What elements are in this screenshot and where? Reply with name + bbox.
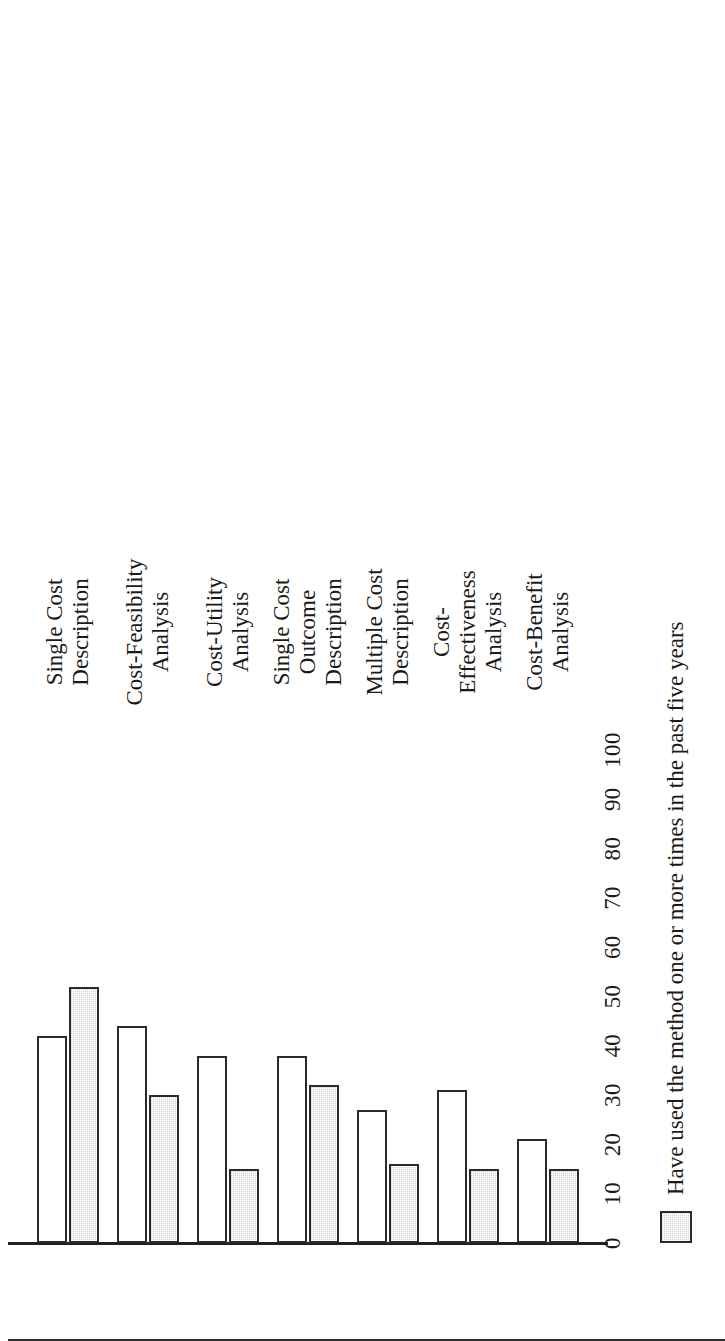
value-tick-label: 100: [600, 732, 626, 767]
bar-filled: [309, 1085, 339, 1243]
category-label-line: Description: [68, 527, 94, 737]
category-label-line: Cost-Benefit: [522, 527, 548, 737]
category-label: Cost-FeasibilityAnalysis: [122, 527, 174, 737]
category-label-line: Analysis: [148, 527, 174, 737]
category-label-line: Cost-Utility: [202, 527, 228, 737]
value-tick-label: 10: [600, 1182, 626, 1206]
value-tick-label: 30: [600, 1083, 626, 1107]
category-label: Cost-UtilityAnalysis: [202, 527, 254, 737]
category-label: Cost-BenefitAnalysis: [522, 527, 574, 737]
bar-filled: [229, 1169, 259, 1243]
bar-open: [197, 1056, 227, 1243]
rotated-figure-canvas: 1009080706050403020100 Single CostDescri…: [0, 0, 725, 1341]
legend-swatch-icon: [660, 1211, 692, 1243]
category-label-line: Cost-Feasibility: [122, 527, 148, 737]
category-label-line: Single Cost: [42, 527, 68, 737]
category-label-line: Description: [321, 527, 347, 737]
legend-label: Have used the method one or more times i…: [663, 621, 689, 1195]
category-label: Multiple CostDescription: [362, 527, 414, 737]
category-label-line: Multiple Cost: [362, 527, 388, 737]
category-label: Cost-EffectivenessAnalysis: [429, 527, 507, 737]
category-label-line: Analysis: [548, 527, 574, 737]
bar-open: [517, 1139, 547, 1243]
value-tick-label: 60: [600, 935, 626, 959]
bar-filled: [389, 1164, 419, 1243]
bar-open: [277, 1056, 307, 1243]
category-label: Single CostOutcomeDescription: [269, 527, 347, 737]
category-label-line: Single Cost: [269, 527, 295, 737]
bar-open: [357, 1110, 387, 1243]
value-tick-label: 40: [600, 1034, 626, 1058]
category-label: Single CostDescription: [42, 527, 94, 737]
bar-filled: [149, 1095, 179, 1243]
category-label-line: Outcome: [295, 527, 321, 737]
value-tick-label: 0: [600, 1237, 626, 1249]
value-tick-label: 50: [600, 985, 626, 1009]
bar-chart-figure: 1009080706050403020100 Single CostDescri…: [0, 0, 725, 1341]
value-axis-tick-labels: 1009080706050403020100: [600, 750, 640, 1243]
category-label-line: Cost-: [429, 527, 455, 737]
bar-filled: [469, 1169, 499, 1243]
bar-open: [437, 1090, 467, 1243]
value-tick-label: 80: [600, 837, 626, 861]
value-tick-label: 90: [600, 788, 626, 812]
category-label-line: Analysis: [228, 527, 254, 737]
bar-filled: [69, 987, 99, 1243]
bar-filled: [549, 1169, 579, 1243]
category-label-line: Analysis: [481, 527, 507, 737]
plot-area: [28, 750, 588, 1243]
value-tick-label: 70: [600, 886, 626, 910]
category-label-line: Effectiveness: [455, 527, 481, 737]
bar-open: [37, 1036, 67, 1243]
value-tick-label: 20: [600, 1133, 626, 1157]
category-label-line: Description: [388, 527, 414, 737]
bar-open: [117, 1026, 147, 1243]
chart-legend: Have used the method one or more times i…: [660, 621, 692, 1243]
